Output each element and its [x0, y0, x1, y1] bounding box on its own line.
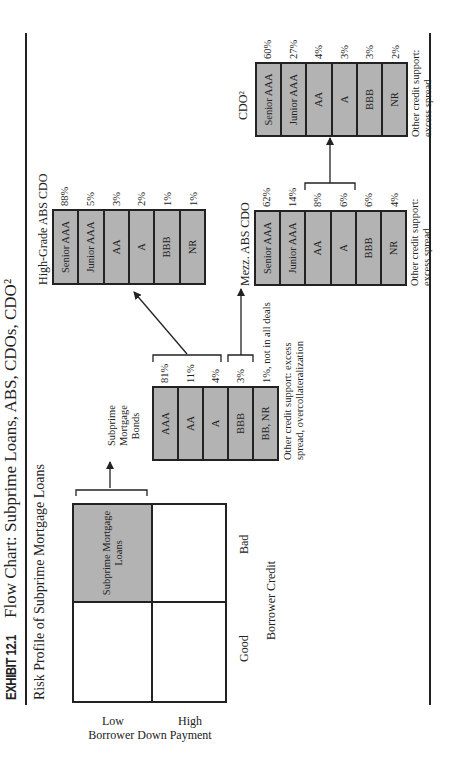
mezz-bracket — [305, 183, 355, 190]
bbb-bonds-bracket — [228, 355, 253, 362]
senior-bonds-bracket — [153, 355, 221, 362]
exhibit-page: EXHIBIT 12.1 Flow Chart: Subprime Loans,… — [0, 0, 460, 768]
flow-connectors — [0, 0, 460, 768]
loans-bracket — [76, 490, 147, 496]
to-high-grade-arrow — [134, 292, 187, 354]
